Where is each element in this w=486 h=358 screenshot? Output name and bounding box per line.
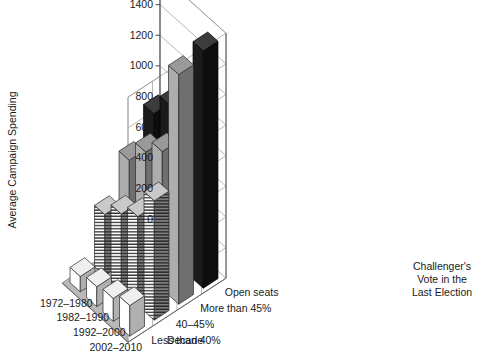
legend-label-40-45-: 40–45%	[176, 318, 215, 330]
legend-label-open-seats: Open seats	[225, 286, 279, 298]
legend-title-line-2: Vote in the	[417, 273, 467, 285]
y-tick-label: 1000	[130, 59, 154, 71]
bar-front	[95, 205, 105, 275]
bar-front	[111, 205, 121, 291]
bar-side	[154, 191, 169, 320]
x-category-label-2: 1982–1990	[57, 311, 110, 323]
x-category-label-3: 1992–2000	[73, 326, 126, 338]
bar-front	[169, 65, 179, 304]
bar-side	[203, 41, 218, 288]
legend-title-line-1: Challenger's	[413, 260, 471, 272]
x-category-label-4: 2002–2010	[90, 341, 143, 353]
y-tick-label: 1200	[130, 29, 154, 41]
bar-side	[179, 65, 194, 304]
y-tick-label: 1400	[130, 0, 154, 10]
bar-4-open-seats	[193, 32, 218, 288]
bar-4-more-than-45-	[169, 56, 194, 304]
x-axis-title: Decade	[167, 334, 203, 346]
y-tick-label: 600	[135, 121, 153, 133]
bar-front	[144, 192, 154, 321]
legend-title-line-3: Last Election	[412, 286, 472, 298]
three-d-bar-chart: 020040060080010001200140016001972–198019…	[0, 0, 486, 358]
bar-4-40-45-	[144, 182, 169, 320]
y-tick-label: 400	[135, 151, 153, 163]
x-category-label-1: 1972–1980	[40, 297, 93, 309]
bar-front	[193, 42, 203, 289]
chart-figure: 020040060080010001200140016001972–198019…	[0, 0, 486, 358]
y-axis-title: Average Campaign Spending	[6, 91, 18, 228]
y-tick-label: 200	[135, 182, 153, 194]
legend-label-more-than-45-: More than 45%	[200, 302, 271, 314]
y-tick-label: 800	[135, 90, 153, 102]
y-tick-label: 0	[147, 213, 153, 225]
